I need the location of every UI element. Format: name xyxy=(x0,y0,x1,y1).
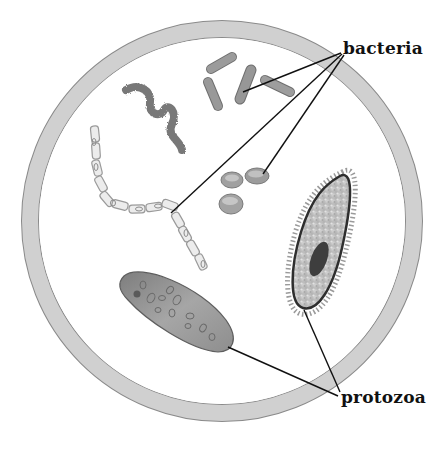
petri-dish xyxy=(30,29,414,413)
microorganisms-diagram xyxy=(0,0,443,451)
protozoa-label: protozoa xyxy=(341,389,426,406)
bacteria-label: bacteria xyxy=(343,40,423,57)
